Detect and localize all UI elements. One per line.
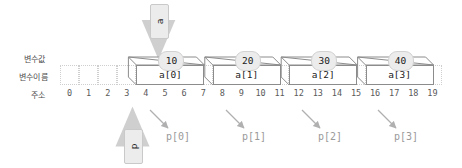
cell-edge <box>358 77 366 85</box>
pointer-box-p-label: p <box>128 144 139 150</box>
pointer-box-a: a <box>150 4 169 39</box>
address-number: 0 <box>60 88 79 98</box>
cell-edge <box>128 77 136 85</box>
array-cell-value-bubble: 10 <box>158 51 184 71</box>
pointer-box-a-label: a <box>154 19 165 25</box>
pointer-element-label: p[1] <box>242 131 266 142</box>
array-cell-value-bubble: 30 <box>311 51 337 71</box>
address-number: 6 <box>175 88 194 98</box>
cell-edge <box>205 77 213 85</box>
memory-layout-diagram: a[0]a[1]a[2]a[3] <box>0 0 462 168</box>
array-cell-value-bubble: 40 <box>388 51 414 71</box>
address-number: 16 <box>366 88 385 98</box>
pointer-element-label: p[3] <box>394 131 418 142</box>
address-number: 13 <box>308 88 327 98</box>
address-number: 9 <box>232 88 251 98</box>
address-number: 7 <box>194 88 213 98</box>
address-number: 17 <box>385 88 404 98</box>
label-variable-value: 변수값 <box>24 53 46 64</box>
address-number: 5 <box>156 88 175 98</box>
address-number: 18 <box>404 88 423 98</box>
pointer-box-a-label-wrap: a <box>151 5 168 38</box>
address-number: 2 <box>98 88 117 98</box>
p3-arrow <box>378 110 396 128</box>
cell-edge <box>281 77 289 85</box>
p1-arrow <box>226 110 244 128</box>
p0-arrow <box>150 110 168 128</box>
pointer-element-label: p[2] <box>318 131 342 142</box>
address-number: 4 <box>136 88 155 98</box>
pointer-box-p: p <box>124 129 143 164</box>
address-number: 14 <box>327 88 346 98</box>
address-number: 8 <box>213 88 232 98</box>
pointer-element-label: p[0] <box>166 131 190 142</box>
address-number: 12 <box>289 88 308 98</box>
address-number: 19 <box>423 88 442 98</box>
array-cell-value-bubble: 20 <box>235 51 261 71</box>
address-number: 3 <box>117 88 136 98</box>
address-number: 11 <box>270 88 289 98</box>
label-address: 주소 <box>31 89 45 100</box>
label-variable-name: 변수이름 <box>19 71 48 82</box>
connector-overlay <box>0 0 462 168</box>
address-number: 15 <box>347 88 366 98</box>
address-number: 10 <box>251 88 270 98</box>
address-number: 1 <box>79 88 98 98</box>
p2-arrow <box>302 110 320 128</box>
pointer-box-p-label-wrap: p <box>125 130 142 163</box>
